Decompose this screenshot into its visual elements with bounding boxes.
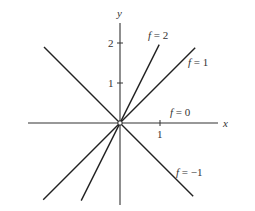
level-value: = −1 [179,166,202,178]
x-axis-label: x [222,117,228,129]
level-curves-diagram: 112 x y f = 2 f = 1 f = 0 f = −1 [0,0,255,211]
level-label-f-2: f = 2 [148,29,168,41]
origin-open-circle [118,121,122,125]
level-value: = 1 [191,56,208,68]
level-value: = 2 [151,29,168,41]
level-label-f-1: f = 1 [188,56,208,68]
level-label-f-minus-1: f = −1 [176,166,202,178]
y-axis-label: y [116,7,122,19]
level-label-f-0: f = 0 [170,106,191,118]
y-tick-label: 2 [108,37,114,49]
x-tick-label: 1 [157,128,163,140]
level-value: = 0 [173,106,191,118]
y-tick-label: 1 [108,77,114,89]
